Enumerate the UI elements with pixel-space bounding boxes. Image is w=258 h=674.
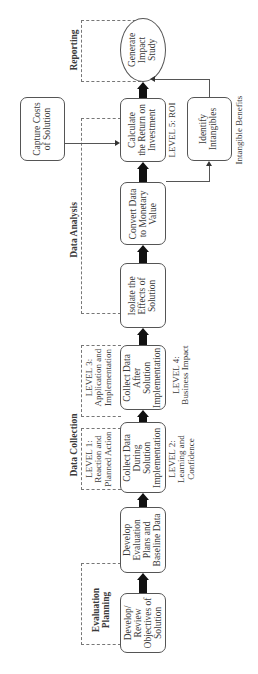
step-impact-ellipse: Generate Impact Study xyxy=(120,18,166,82)
level-4-label: LEVEL 4: Business Impact xyxy=(172,340,191,410)
step-objectives-label: Develop/ Review Objectives of Solution xyxy=(123,598,163,649)
arrowhead-icon xyxy=(115,140,120,146)
arrow-during-to-after xyxy=(139,417,147,422)
arrowhead-icon xyxy=(137,82,149,89)
connector-intangibles-to-impact-vertical xyxy=(209,79,210,97)
identify-intangibles-box: Identify Intangibles xyxy=(187,97,232,161)
step-plans-label: Develop Evaluation Plans and Baseline Da… xyxy=(123,513,163,566)
step-collect-during-box: Collect Data During Solution Implementat… xyxy=(120,422,166,493)
section-title-data-collection: Data Collection xyxy=(70,395,80,495)
arrowhead-icon xyxy=(150,76,155,82)
arrowhead-icon xyxy=(206,161,212,166)
level-1-label: LEVEL 1: Reaction and Planned Action xyxy=(85,423,113,495)
arrow-convert-to-roi xyxy=(139,169,147,182)
level-5-label: LEVEL 5: ROI xyxy=(168,95,177,165)
step-isolate-box: Isolate the Effects of Solution xyxy=(120,263,166,328)
step-plans-box: Develop Evaluation Plans and Baseline Da… xyxy=(120,507,166,573)
connector-intangibles-to-impact xyxy=(155,79,210,80)
arrowhead-icon xyxy=(137,328,149,335)
connector-convert-to-intangibles-vertical xyxy=(209,166,210,182)
step-objectives-box: Develop/ Review Objectives of Solution xyxy=(120,593,166,653)
section-title-evaluation-planning: Evaluation Planning xyxy=(92,575,112,645)
arrow-isolate-to-convert xyxy=(139,252,147,263)
arrow-objectives-to-plans xyxy=(139,580,147,593)
intangible-benefits-label: Intangible Benefits xyxy=(235,90,244,170)
connector-convert-to-intangibles xyxy=(166,181,210,182)
section-title-data-analysis: Data Analysis xyxy=(70,175,80,285)
identify-intangibles-label: Identify Intangibles xyxy=(200,108,220,150)
arrow-roi-to-impact xyxy=(139,89,147,98)
step-isolate-label: Isolate the Effects of Solution xyxy=(128,276,158,315)
arrowhead-icon xyxy=(137,162,149,169)
arrow-after-to-isolate xyxy=(139,335,147,345)
section-title-reporting: Reporting xyxy=(70,25,80,75)
arrowhead-icon xyxy=(137,493,149,500)
arrowhead-icon xyxy=(137,245,149,252)
step-roi-box: Calculate the Return on Investment xyxy=(120,98,166,162)
level-3-label: LEVEL 3: Application and Implementation xyxy=(85,340,113,415)
step-collect-after-box: Collect Data After Solution Implementati… xyxy=(120,345,166,410)
arrow-plans-to-collect-during xyxy=(139,500,147,507)
arrowhead-icon xyxy=(137,573,149,580)
arrowhead-icon xyxy=(137,410,149,417)
step-convert-box: Convert Data to Monetary Value xyxy=(120,182,166,245)
capture-costs-box: Capture Costs of Solution xyxy=(20,97,65,161)
step-roi-label: Calculate the Return on Investment xyxy=(128,104,158,156)
level-2-label: LEVEL 2: Learning and Confidence xyxy=(168,423,196,495)
step-collect-after-label: Collect Data After Solution Implementati… xyxy=(123,347,163,407)
step-collect-during-label: Collect Data During Solution Implementat… xyxy=(123,427,163,487)
connector-costs-to-roi xyxy=(65,143,115,144)
capture-costs-label: Capture Costs of Solution xyxy=(33,102,53,156)
section-data-analysis-boundary xyxy=(81,118,121,314)
step-convert-label: Convert Data to Monetary Value xyxy=(128,188,158,239)
step-impact-label: Generate Impact Study xyxy=(128,33,158,67)
